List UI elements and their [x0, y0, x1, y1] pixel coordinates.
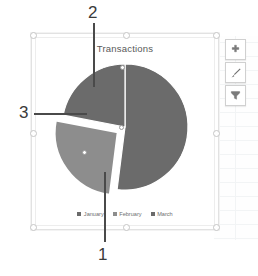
callout-leader-1: [104, 172, 106, 242]
chart-title[interactable]: Transactions: [32, 43, 218, 54]
selection-handle-bottom-right[interactable]: [213, 224, 220, 231]
callout-label-3: 3: [19, 104, 28, 121]
chart-styles-button[interactable]: [225, 62, 246, 83]
selection-handle-top-left[interactable]: [30, 32, 37, 39]
callout-label-2: 2: [88, 4, 97, 21]
selection-handle-bottom-left[interactable]: [30, 224, 37, 231]
pie-slice-january[interactable]: [117, 64, 188, 190]
chart-filters-button[interactable]: [225, 85, 246, 106]
legend-swatch: [77, 212, 81, 216]
pie-chart[interactable]: [40, 54, 210, 204]
legend-item[interactable]: February: [113, 211, 142, 217]
gridline-mask-bottom: [0, 240, 258, 276]
datapoint-handle-top[interactable]: [120, 65, 125, 70]
legend-label: February: [119, 211, 141, 217]
worksheet-canvas: Transactions JanuaryFebruaryMarch: [0, 0, 258, 276]
chart-elements-button[interactable]: [225, 39, 246, 60]
selection-handle-top-center[interactable]: [123, 32, 130, 39]
plus-icon: [230, 44, 241, 55]
pie-slice-february[interactable]: [55, 120, 118, 194]
callout-leader-2: [93, 23, 95, 87]
chart-quick-buttons: [225, 39, 246, 106]
selection-handle-bottom-center[interactable]: [123, 224, 130, 231]
legend-item[interactable]: January: [77, 211, 103, 217]
pie-plot-area[interactable]: [32, 54, 218, 204]
funnel-icon: [230, 90, 241, 101]
callout-label-1: 1: [98, 246, 107, 263]
callout-leader-3: [34, 113, 87, 115]
chart-object[interactable]: Transactions JanuaryFebruaryMarch: [31, 33, 219, 230]
selection-handle-top-right[interactable]: [213, 32, 220, 39]
legend-label: January: [84, 211, 104, 217]
legend-swatch: [151, 212, 155, 216]
gridline-mask-top: [0, 0, 258, 36]
legend-label: March: [157, 211, 173, 217]
chart-legend[interactable]: JanuaryFebruaryMarch: [32, 211, 218, 217]
datapoint-handle-left[interactable]: [82, 150, 87, 155]
legend-swatch: [113, 212, 117, 216]
datapoint-handle-center[interactable]: [119, 125, 124, 130]
legend-item[interactable]: March: [151, 211, 173, 217]
brush-icon: [230, 67, 242, 79]
